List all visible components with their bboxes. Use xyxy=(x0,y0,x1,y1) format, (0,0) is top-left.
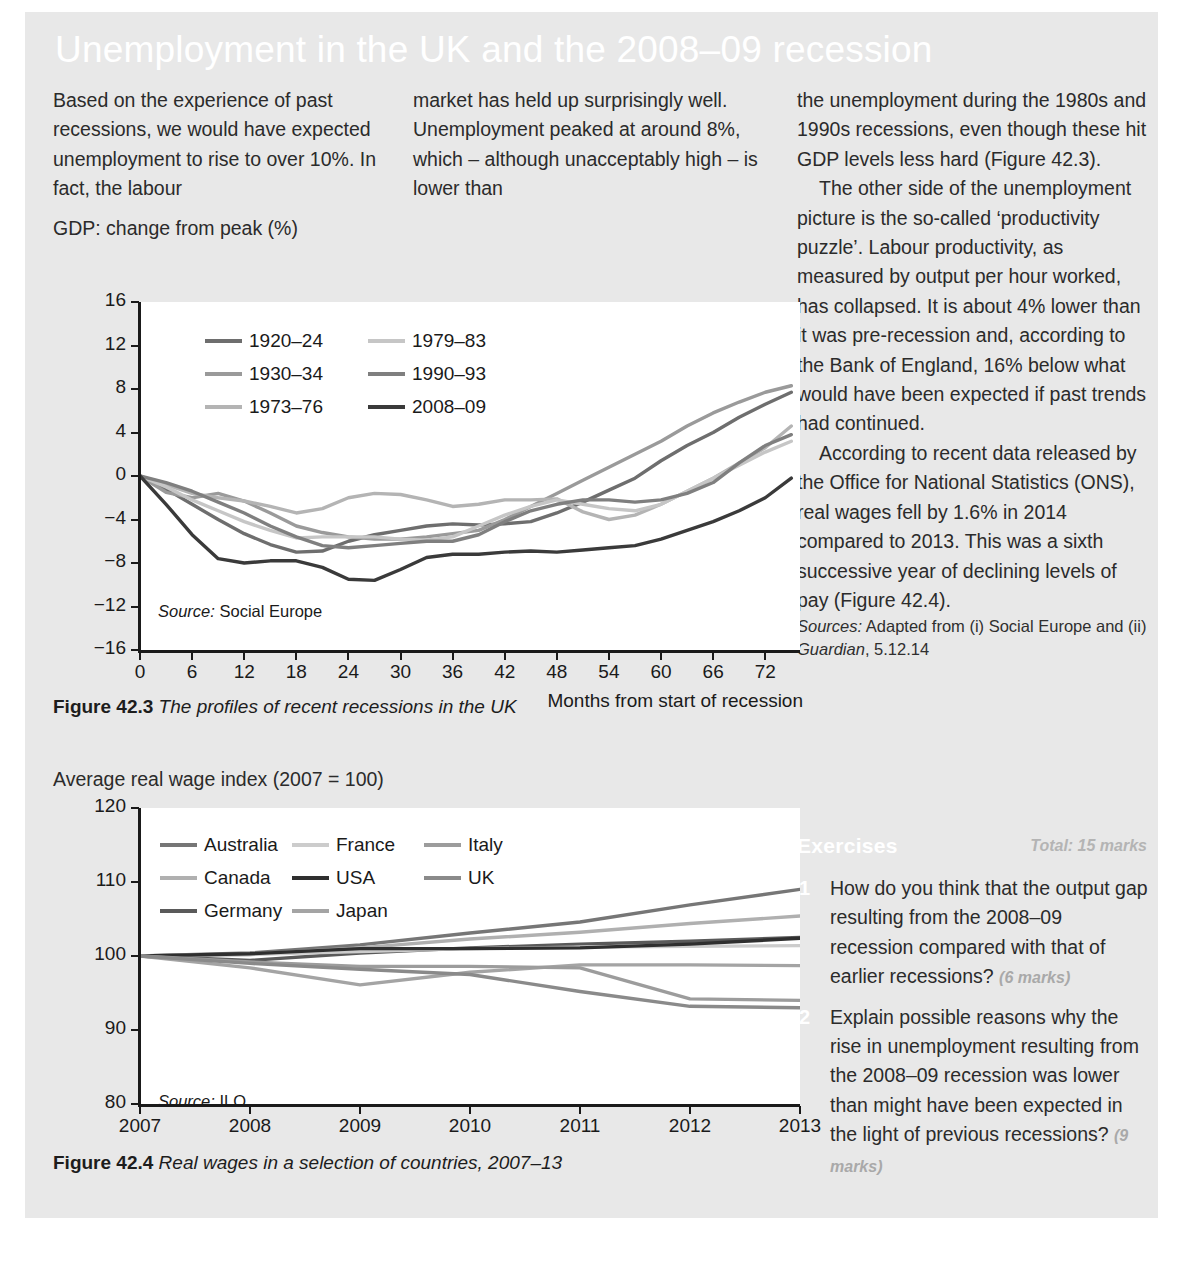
legend-label: Italy xyxy=(468,834,503,855)
y-axis-line xyxy=(138,808,141,1106)
x-axis-tick xyxy=(764,652,766,660)
legend-label: UK xyxy=(468,867,494,888)
y-axis-tick-label: −4 xyxy=(62,507,126,529)
legend-label: 1990–93 xyxy=(412,363,486,384)
y-axis-tick-label: −12 xyxy=(62,594,126,616)
x-axis-tick xyxy=(556,652,558,660)
legend-item: 1920–24 xyxy=(205,330,323,352)
y-axis-tick-label: 90 xyxy=(62,1017,126,1039)
legend-swatch xyxy=(160,876,197,880)
x-axis-tick xyxy=(504,652,506,660)
y-axis-tick xyxy=(131,432,139,434)
legend-item: 1973–76 xyxy=(205,396,323,418)
y-axis-tick xyxy=(131,475,139,477)
legend-swatch xyxy=(160,909,197,913)
y-axis-tick xyxy=(131,562,139,564)
legend-item: 1930–34 xyxy=(205,363,323,385)
legend-swatch xyxy=(368,339,405,343)
legend-item: France xyxy=(292,834,395,856)
legend-swatch xyxy=(205,372,242,376)
y-axis-tick xyxy=(131,1029,139,1031)
legend-swatch xyxy=(292,876,329,880)
y-axis-tick xyxy=(131,345,139,347)
legend-swatch xyxy=(292,909,329,913)
figure-caption-42-4: Figure 42.4 Real wages in a selection of… xyxy=(53,1152,562,1174)
plot-lines xyxy=(140,302,800,652)
legend-label: Germany xyxy=(204,900,282,921)
y-axis-tick-label: 0 xyxy=(62,463,126,485)
x-axis-tick-label: 2012 xyxy=(650,1115,730,1137)
figure-caption-label: Figure 42.4 xyxy=(53,1152,153,1173)
x-axis-tick xyxy=(689,1106,691,1114)
legend-swatch xyxy=(424,876,461,880)
x-axis-tick xyxy=(139,1106,141,1114)
exercise-item: 1How do you think that the output gap re… xyxy=(797,874,1149,993)
legend-swatch xyxy=(205,405,242,409)
y-axis-tick-label: 100 xyxy=(62,943,126,965)
x-axis-tick xyxy=(191,652,193,660)
y-axis-tick-label: −8 xyxy=(62,550,126,572)
legend-item: UK xyxy=(424,867,494,889)
y-axis-tick xyxy=(131,301,139,303)
legend-label: USA xyxy=(336,867,375,888)
x-axis-tick xyxy=(359,1106,361,1114)
legend-item: Canada xyxy=(160,867,271,889)
y-axis-tick-label: 120 xyxy=(62,795,126,817)
chart-source-note: Source: Social Europe xyxy=(158,602,322,621)
x-axis-tick-label: 2009 xyxy=(320,1115,400,1137)
chart-source-value: Social Europe xyxy=(215,602,322,620)
legend-swatch xyxy=(160,843,197,847)
figure-caption-text: Real wages in a selection of countries, … xyxy=(159,1152,562,1173)
x-axis-tick xyxy=(400,652,402,660)
x-axis-tick xyxy=(249,1106,251,1114)
sources-text: Adapted from (i) Social Europe and (ii) xyxy=(862,617,1146,635)
figure-caption-text: The profiles of recent recessions in the… xyxy=(159,696,517,717)
y-axis-tick xyxy=(131,649,139,651)
chart-source-label: Source: xyxy=(158,1092,215,1110)
x-axis-tick xyxy=(660,652,662,660)
legend-item: 1979–83 xyxy=(368,330,486,352)
exercise-text: How do you think that the output gap res… xyxy=(830,877,1148,987)
legend-swatch xyxy=(292,843,329,847)
legend-item: Japan xyxy=(292,900,388,922)
x-axis-tick xyxy=(452,652,454,660)
body-column-1: Based on the experience of past recessio… xyxy=(53,86,403,204)
legend-item: USA xyxy=(292,867,375,889)
article-page: Unemployment in the UK and the 2008–09 r… xyxy=(25,12,1158,1218)
x-axis-tick-label: 2010 xyxy=(430,1115,510,1137)
y-axis-tick-label: 12 xyxy=(62,333,126,355)
exercises-header: Exercises Total: 15 marks xyxy=(797,834,1149,864)
y-axis-tick-label: 16 xyxy=(62,289,126,311)
legend-swatch xyxy=(368,405,405,409)
body-column-2: market has held up surprisingly well. Un… xyxy=(413,86,773,204)
y-axis-tick xyxy=(131,955,139,957)
y-axis-tick xyxy=(131,807,139,809)
legend-label: France xyxy=(336,834,395,855)
y-axis-tick-label: 4 xyxy=(62,420,126,442)
page-title: Unemployment in the UK and the 2008–09 r… xyxy=(55,28,1145,72)
x-axis-tick-label: 2013 xyxy=(760,1115,840,1137)
x-axis-tick-label: 72 xyxy=(725,661,805,683)
legend-swatch xyxy=(205,339,242,343)
x-axis-tick xyxy=(712,652,714,660)
y-axis-tick-label: 8 xyxy=(62,376,126,398)
body-paragraph-a: Based on the experience of past recessio… xyxy=(53,86,403,204)
legend-label: 1979–83 xyxy=(412,330,486,351)
figure-caption-label: Figure 42.3 xyxy=(53,696,153,717)
x-axis-tick xyxy=(243,652,245,660)
x-axis-tick-label: 2008 xyxy=(210,1115,290,1137)
legend-item: Italy xyxy=(424,834,503,856)
legend-label: 1920–24 xyxy=(249,330,323,351)
legend-item: Australia xyxy=(160,834,278,856)
chart-source-label: Source: xyxy=(158,602,215,620)
legend-item: Germany xyxy=(160,900,282,922)
body-paragraph-c1: the unemployment during the 1980s and 19… xyxy=(797,86,1147,174)
chart2-axis-title: Average real wage index (2007 = 100) xyxy=(53,767,503,791)
x-axis-title: Months from start of recession xyxy=(547,690,803,712)
exercise-text: Explain possible reasons why the rise in… xyxy=(830,1006,1139,1146)
series-line-1973-76 xyxy=(140,426,791,520)
y-axis-tick-label: 80 xyxy=(62,1091,126,1113)
exercise-marks: (6 marks) xyxy=(999,969,1070,986)
y-axis-line xyxy=(138,302,141,652)
legend-label: 1973–76 xyxy=(249,396,323,417)
